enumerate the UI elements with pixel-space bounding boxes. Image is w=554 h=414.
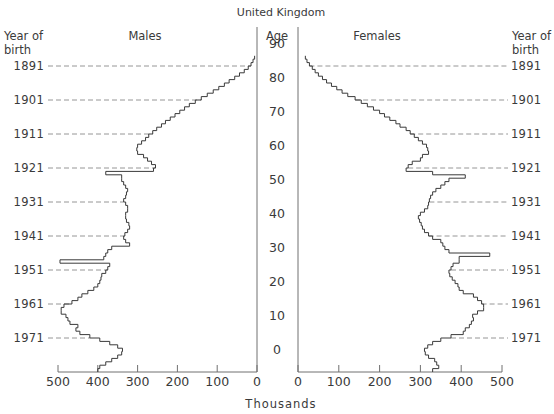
year-of-birth-label-male: 1971 (14, 331, 44, 345)
year-of-birth-label-right-1: Year of (511, 29, 552, 43)
population-pyramid-chart: United Kingdom Year of birth Males Age F… (0, 0, 554, 414)
x-tick-label: 100 (327, 374, 351, 389)
x-tick-label: 100 (205, 374, 229, 389)
year-of-birth-markers: 1891189119011901191119111921192119311931… (14, 59, 542, 345)
age-tick-label: 90 (269, 36, 285, 51)
age-tick-label: 70 (269, 104, 285, 119)
age-tick-label: 50 (269, 172, 285, 187)
males-label: Males (128, 29, 161, 43)
age-tick-label: 30 (269, 240, 285, 255)
year-of-birth-label-female: 1941 (511, 229, 541, 243)
x-tick-label: 300 (408, 374, 432, 389)
age-tick-label: 20 (269, 274, 285, 289)
year-of-birth-label-female: 1971 (511, 331, 541, 345)
x-tick-label: 200 (165, 374, 189, 389)
age-tick-label: 10 (269, 308, 285, 323)
year-of-birth-label-female: 1961 (511, 297, 541, 311)
year-of-birth-label-left-2: birth (4, 43, 31, 57)
x-tick-label: 400 (449, 374, 473, 389)
x-tick-label: 500 (490, 374, 514, 389)
age-tick-label: 40 (269, 206, 285, 221)
x-tick-label: 0 (253, 374, 261, 389)
chart-title: United Kingdom (237, 6, 325, 19)
year-of-birth-label-left-1: Year of (3, 29, 44, 43)
year-of-birth-label-male: 1951 (14, 263, 44, 277)
year-of-birth-label-male: 1921 (14, 161, 44, 175)
x-tick-label: 200 (368, 374, 392, 389)
age-tick-label: 0 (273, 342, 281, 357)
year-of-birth-label-female: 1931 (511, 195, 541, 209)
year-of-birth-label-female: 1921 (511, 161, 541, 175)
male-x-ticks: 5004003002001000 (46, 365, 261, 389)
age-tick-label: 80 (269, 70, 285, 85)
year-of-birth-label-male: 1931 (14, 195, 44, 209)
x-tick-label: 400 (86, 374, 110, 389)
year-of-birth-label-male: 1941 (14, 229, 44, 243)
year-of-birth-label-right-2: birth (512, 43, 539, 57)
year-of-birth-label-male: 1891 (14, 59, 44, 73)
x-tick-label: 0 (294, 374, 302, 389)
x-tick-label: 300 (126, 374, 150, 389)
year-of-birth-label-female: 1911 (511, 127, 541, 141)
age-tick-label: 60 (269, 138, 285, 153)
females-pyramid-outline (305, 56, 489, 372)
age-tick-labels: 9080706050403020100 (269, 36, 285, 357)
year-of-birth-label-male: 1911 (14, 127, 44, 141)
year-of-birth-label-male: 1961 (14, 297, 44, 311)
females-label: Females (353, 29, 401, 43)
year-of-birth-label-male: 1901 (14, 93, 44, 107)
female-x-ticks: 0100200300400500 (294, 365, 514, 389)
x-tick-label: 500 (46, 374, 70, 389)
x-axis-label: Thousands (244, 397, 316, 411)
year-of-birth-label-female: 1951 (511, 263, 541, 277)
year-of-birth-label-female: 1901 (511, 93, 541, 107)
males-pyramid-outline (60, 56, 255, 372)
year-of-birth-label-female: 1891 (511, 59, 541, 73)
